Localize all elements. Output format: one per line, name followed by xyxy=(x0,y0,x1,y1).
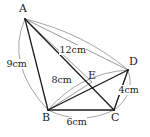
vertex-dot-d xyxy=(127,69,129,71)
vertex-label-c: C xyxy=(111,112,119,123)
measurement-arcs xyxy=(19,19,130,118)
geometry-figure: A B C D E 9cm 12cm 8cm 4cm 6cm xyxy=(0,0,150,137)
vertex-label-a: A xyxy=(19,3,27,14)
measure-label-ab: 9cm xyxy=(6,59,27,69)
measure-label-bd: 8cm xyxy=(51,75,72,85)
measure-label-bc: 6cm xyxy=(66,117,87,127)
measure-label-dc: 4cm xyxy=(118,85,139,95)
vertex-label-e: E xyxy=(88,70,96,81)
vertex-markers xyxy=(24,18,129,111)
vertex-label-d: D xyxy=(129,56,138,67)
segment-be-thin xyxy=(48,82,92,110)
main-edges xyxy=(25,19,128,110)
vertex-label-b: B xyxy=(42,112,50,123)
vertex-dot-a xyxy=(24,18,26,20)
measure-label-ad: 12cm xyxy=(59,45,86,55)
